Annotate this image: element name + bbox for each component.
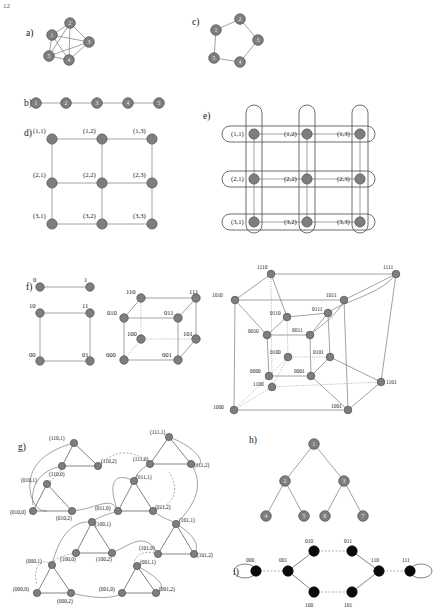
panel-c-label: c): [192, 17, 199, 28]
node-label: (000,2): [57, 598, 73, 605]
panel-h-node: 6: [320, 511, 331, 522]
panel-d-node: [47, 219, 57, 229]
panel-i-node: [347, 587, 357, 597]
panel-i-node: [309, 587, 319, 597]
node-label: 0101: [313, 349, 324, 355]
panel-e-label: e): [203, 111, 210, 122]
panel-i-node: [283, 566, 293, 576]
node-label: 100: [127, 330, 138, 337]
panel-e-node: [355, 129, 365, 139]
node-label: 11: [82, 302, 88, 309]
node-label: 0010: [248, 328, 259, 334]
node-label: 0000: [250, 368, 261, 374]
node-label: (3,2): [284, 218, 297, 226]
panel-a-node: 5: [44, 51, 55, 62]
node-label: 3: [343, 478, 346, 484]
node-label: 1: [51, 32, 54, 38]
node-label: (110,0): [49, 471, 65, 478]
node-label: 000: [246, 557, 254, 563]
node-label: 1101: [386, 379, 397, 385]
panel-h-node: 4: [261, 511, 272, 522]
panel-g: g): [10, 429, 213, 605]
node-label: 3: [88, 39, 91, 45]
node-label: (2,3): [337, 175, 350, 183]
panel-h-node: 1: [309, 439, 320, 450]
panel-f-q1: 0 1: [33, 276, 94, 291]
node-label: 10: [29, 302, 36, 309]
panel-b-node: 3: [92, 98, 103, 109]
panel-b-node: 5: [154, 98, 165, 109]
panel-e-node: [249, 217, 259, 227]
node-label: 5: [48, 53, 51, 59]
node-label: 011: [164, 309, 174, 316]
panel-d-node: [97, 134, 107, 144]
panel-h-node: 7: [358, 511, 369, 522]
node-label: 101: [344, 602, 352, 608]
node-label: 001: [279, 557, 287, 563]
node-label: 1010: [212, 292, 223, 298]
panel-e-node: [302, 174, 312, 184]
panel-e: e) (1,1) (1,2) (1: [203, 105, 375, 233]
panel-d-node: [47, 178, 57, 188]
node-label: (011,1): [136, 474, 152, 481]
panel-c-node: 2: [235, 14, 246, 25]
node-label: (1,2): [284, 130, 297, 138]
panel-a-node: 3: [84, 37, 95, 48]
panel-f-q4: 1110 1111 1010 1011 0110 0111 0010 0011 …: [212, 264, 400, 414]
node-label: (1,2): [83, 127, 96, 135]
panel-i-node: [309, 546, 319, 556]
node-label: 100: [305, 602, 313, 608]
panel-a: a) 1 2 3 4 5: [26, 18, 94, 66]
node-label: 5: [213, 55, 216, 61]
panel-d-node: [97, 178, 107, 188]
node-label: (3,3): [133, 212, 146, 220]
node-label: 010: [107, 309, 118, 316]
panel-h-node: 5: [299, 511, 310, 522]
panel-i-node: [347, 546, 357, 556]
node-label: 0: [33, 276, 37, 283]
node-label: 1000: [213, 404, 224, 410]
panel-d-label: d): [24, 128, 32, 139]
node-label: 7: [362, 513, 365, 519]
panel-d: d) (1,1) (1,2) (1,3) (2,1) (2,2) (2,3) (…: [24, 127, 157, 229]
panel-i-solid-edges: [288, 551, 379, 592]
panel-e-node: [302, 129, 312, 139]
node-label: (1,1): [33, 127, 46, 135]
panel-e-node: [355, 217, 365, 227]
panel-f: f) 0 1 10 11 00 01: [26, 264, 400, 414]
node-label: (1,3): [133, 127, 146, 135]
panel-g-label: g): [18, 442, 26, 453]
panel-a-node: 1: [47, 30, 58, 41]
node-label: 110: [126, 288, 136, 295]
panel-d-node: [147, 219, 157, 229]
node-label: (100,1): [95, 521, 111, 528]
node-label: (2,1): [33, 171, 46, 179]
node-label: (3,1): [33, 212, 46, 220]
node-label: 01: [82, 351, 89, 358]
panel-h-node: 3: [339, 476, 350, 487]
panel-c-edges: [214, 19, 258, 62]
panel-h: h) 1 2 3 4 5 6 7: [249, 435, 368, 521]
panel-e-node: [302, 217, 312, 227]
panel-h-node: 2: [280, 476, 291, 487]
panel-b-node: 1: [31, 98, 42, 109]
node-label: 1110: [257, 264, 268, 270]
node-label: 0111: [312, 306, 323, 312]
node-label: (010,0): [10, 509, 26, 516]
node-label: (010,2): [56, 515, 72, 522]
node-label: 3: [257, 37, 260, 43]
node-label: 1: [215, 27, 218, 33]
node-label: 2: [284, 478, 287, 484]
node-label: 6: [324, 513, 327, 519]
node-label: 1: [84, 276, 87, 283]
panel-a-node: 2: [65, 18, 76, 29]
node-label: (000,0): [13, 586, 29, 593]
node-label: 111: [402, 557, 410, 563]
node-label: 011: [344, 538, 352, 544]
panel-e-node: [249, 174, 259, 184]
node-label: (101,2): [197, 552, 213, 559]
node-label: 2: [69, 20, 72, 26]
node-label: (111,1): [150, 429, 166, 436]
node-label: 5: [158, 100, 161, 106]
panel-f-q3: 110 111 010 011 100 101 000 001: [106, 288, 200, 364]
